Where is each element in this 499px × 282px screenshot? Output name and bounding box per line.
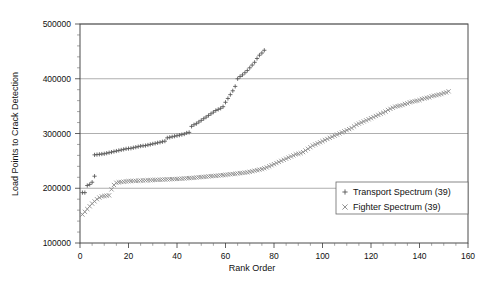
data-point [262,48,266,52]
data-point [170,135,174,139]
scatter-plot: 020406080100120140160 100000200000300000… [0,0,499,282]
data-point [109,150,113,154]
x-tick-label: 100 [315,251,329,261]
data-point [102,152,106,156]
y-tick-label: 500000 [43,19,72,29]
x-tick-label: 160 [461,251,475,261]
data-point [165,136,169,140]
data-point [136,145,140,149]
y-tick-label: 100000 [43,238,72,248]
data-point [255,56,259,60]
x-tick-label: 40 [172,251,182,261]
data-point [163,139,167,143]
y-axis-tick-labels: 100000200000300000400000500000 [43,19,72,248]
y-axis-title: Load Points to Crack Detection [10,72,20,196]
data-point [158,140,162,144]
y-tick-label: 400000 [43,74,72,84]
x-tick-label: 120 [364,251,378,261]
chart-figure: 020406080100120140160 100000200000300000… [0,0,499,282]
chart-legend: Transport Spectrum (39)Fighter Spectrum … [336,182,468,214]
data-point [83,191,87,195]
data-point [90,180,94,184]
data-point [168,135,172,139]
data-point [160,140,164,144]
data-point [112,149,116,153]
data-point [143,143,147,147]
x-tick-label: 140 [412,251,426,261]
y-tick-label: 300000 [43,129,72,139]
data-point [156,141,160,145]
data-point [228,93,232,97]
data-point [107,151,111,155]
x-tick-label: 0 [78,251,83,261]
data-point [248,66,252,70]
data-point [107,193,111,197]
data-point [253,60,257,64]
data-point [148,142,152,146]
data-point [117,148,121,152]
data-point [172,134,176,138]
data-point [129,146,133,150]
x-axis-tick-labels: 020406080100120140160 [78,251,476,261]
data-point [92,174,96,178]
data-point [243,71,247,75]
data-point [245,68,249,72]
data-point [119,148,123,152]
legend-label: Transport Spectrum (39) [353,187,451,197]
data-point [175,134,179,138]
data-point [95,197,99,201]
data-point [250,63,254,67]
legend-label: Fighter Spectrum (39) [353,202,441,212]
x-tick-label: 20 [124,251,134,261]
x-tick-label: 80 [269,251,279,261]
data-point [231,89,235,93]
data-point [236,77,240,81]
data-point [233,84,237,88]
data-point [223,100,227,104]
data-point [153,141,157,145]
x-axis-title: Rank Order [229,263,276,273]
data-point [257,53,261,57]
data-point [151,142,155,146]
data-point [303,148,307,152]
data-point [352,124,356,128]
data-point [131,146,135,150]
data-point [114,149,118,153]
y-tick-label: 200000 [43,183,72,193]
data-point [122,147,126,151]
x-tick-label: 60 [221,251,231,261]
data-point [226,96,230,100]
data-point [308,145,312,149]
data-point [260,51,264,55]
data-point [134,145,138,149]
data-point [146,143,150,147]
data-point [306,147,310,151]
data-point [105,151,109,155]
